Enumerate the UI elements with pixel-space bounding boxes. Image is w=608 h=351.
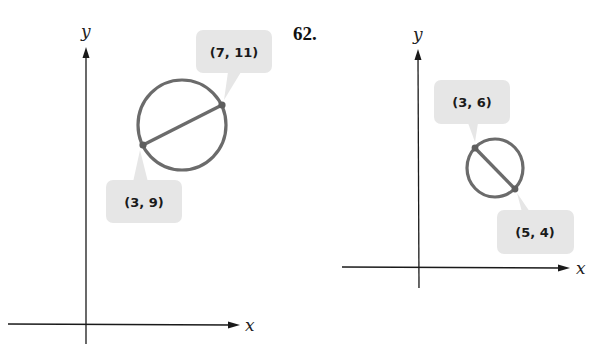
callout-pointer bbox=[517, 193, 530, 212]
callout-pointer bbox=[468, 123, 478, 142]
figure-left: y x (7, 11) (3, 9) bbox=[8, 21, 272, 344]
x-axis-arrow-icon bbox=[558, 265, 570, 272]
point-label-3-6: (3, 6) bbox=[452, 95, 491, 110]
y-axis-right bbox=[418, 58, 419, 288]
endpoint-3-9 bbox=[139, 141, 146, 148]
endpoint-3-6 bbox=[472, 145, 479, 152]
y-axis-label-left: y bbox=[80, 21, 91, 41]
diameter-left bbox=[143, 105, 222, 145]
callout-pointer bbox=[133, 150, 148, 182]
x-axis-label-right: x bbox=[576, 258, 586, 278]
x-axis-left bbox=[8, 324, 231, 325]
figure-right: y x (3, 6) (5, 4) bbox=[342, 24, 586, 288]
point-label-5-4: (5, 4) bbox=[515, 225, 554, 240]
x-axis-arrow-icon bbox=[228, 322, 240, 329]
problem-number: 62. bbox=[293, 23, 317, 44]
point-label-3-9: (3, 9) bbox=[124, 195, 163, 210]
figure-canvas: y x (7, 11) (3, 9) 62. y x (3, 6) bbox=[0, 0, 608, 351]
y-axis-label-right: y bbox=[412, 24, 423, 44]
diameter-right bbox=[475, 148, 515, 189]
y-axis-arrow-icon bbox=[83, 47, 90, 58]
endpoint-7-11 bbox=[218, 101, 225, 108]
x-axis-label-left: x bbox=[245, 315, 255, 335]
y-axis-arrow-icon bbox=[415, 49, 422, 60]
callout-pointer bbox=[224, 72, 241, 100]
x-axis-right bbox=[342, 267, 561, 268]
point-label-7-11: (7, 11) bbox=[210, 45, 258, 60]
endpoint-5-4 bbox=[512, 186, 519, 193]
